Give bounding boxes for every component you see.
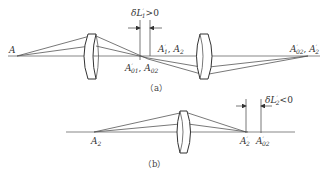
delta-l2-annotation: δL′2<0 bbox=[265, 94, 293, 106]
optical-diagram: δL′1>0 A A′01, A02 A′1, A2 A′02, A′2 （a）… bbox=[0, 0, 324, 175]
ray-zonal-in bbox=[17, 46, 90, 56]
lens-b bbox=[177, 111, 191, 153]
caption-b: （b） bbox=[143, 159, 166, 169]
ray-zonal-in-b bbox=[94, 124, 180, 132]
delta-l1-annotation: δL′1>0 bbox=[131, 7, 159, 19]
paraxial-image-label-b: A′02 bbox=[255, 135, 270, 147]
ray-zonal-div bbox=[148, 58, 201, 67]
ray-marginal-out-b bbox=[188, 113, 246, 132]
figure-a: δL′1>0 A A′01, A02 A′1, A2 A′02, A′2 （a） bbox=[8, 7, 320, 93]
object-label-b: A2 bbox=[90, 136, 102, 147]
marginal-image-label-b: A′2 bbox=[239, 135, 250, 147]
object-label-a: A bbox=[8, 45, 16, 55]
ray-marginal-in-b bbox=[94, 113, 180, 132]
figure-b: δL′2<0 A2 A′2 A′02 （b） bbox=[66, 94, 295, 169]
caption-a: （a） bbox=[145, 83, 168, 93]
marginal-image-label-a: A′1, A2 bbox=[157, 43, 184, 55]
paraxial-image-label-a: A′01, A02 bbox=[124, 62, 159, 74]
ray-zonal-out-b bbox=[188, 124, 248, 132]
image2-label-a: A′02, A′2 bbox=[289, 43, 319, 55]
ray-marginal-in bbox=[17, 36, 90, 56]
lens-2 bbox=[197, 34, 213, 79]
